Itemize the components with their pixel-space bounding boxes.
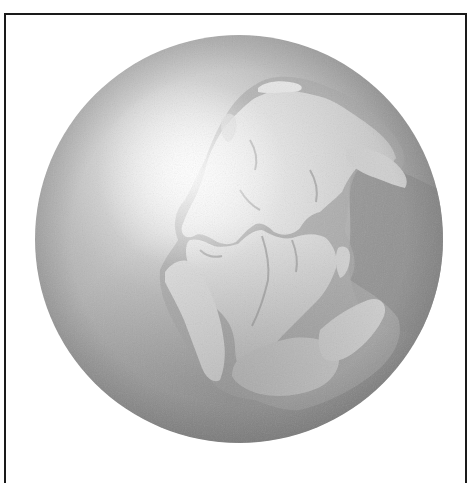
- pangaea-globe-illustration: [0, 0, 473, 466]
